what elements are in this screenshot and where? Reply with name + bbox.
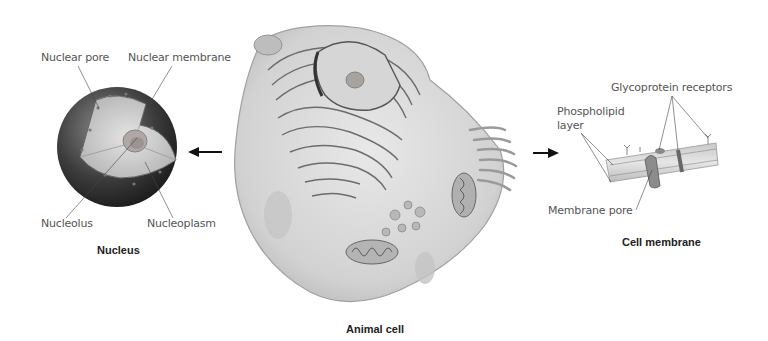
arrow-left-icon	[188, 147, 222, 157]
arrow-right-icon	[533, 148, 559, 158]
nucleus-illustration	[57, 66, 177, 218]
label-membrane-pore: Membrane pore	[548, 204, 633, 217]
caption-animal-cell: Animal cell	[346, 323, 404, 335]
caption-cell-membrane: Cell membrane	[622, 236, 701, 248]
label-nucleoplasm: Nucleoplasm	[147, 217, 216, 230]
label-nucleolus: Nucleolus	[41, 217, 93, 230]
label-nuclear-pore: Nuclear pore	[41, 51, 109, 64]
diagram-canvas	[0, 0, 768, 341]
label-phospholipid-layer-line1: Phospholipid	[557, 105, 624, 118]
animal-cell-illustration	[235, 26, 516, 302]
label-glycoprotein-receptors: Glycoprotein receptors	[611, 81, 732, 94]
label-phospholipid-layer-line2: layer	[557, 119, 584, 132]
label-nuclear-membrane: Nuclear membrane	[128, 51, 231, 64]
caption-nucleus: Nucleus	[97, 244, 140, 256]
